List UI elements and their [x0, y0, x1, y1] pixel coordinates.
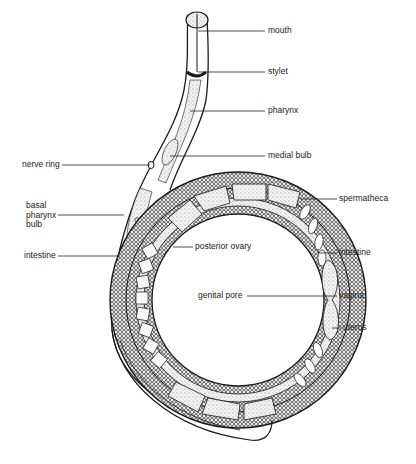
label-genital-pore: genital pore — [198, 291, 242, 300]
label-spermatheca: spermatheca — [339, 194, 388, 203]
label-intestine-right: intestine — [339, 248, 371, 257]
label-stylet: stylet — [268, 67, 288, 76]
label-medial-bulb: medial bulb — [268, 151, 311, 160]
label-intestine-left: intestine — [24, 251, 56, 260]
label-pharynx: pharynx — [268, 106, 298, 115]
label-uterus: uterus — [343, 323, 367, 332]
label-basal-pharynx-bulb: basal pharynx bulb — [26, 201, 56, 230]
label-mouth: mouth — [268, 26, 292, 35]
label-posterior-ovary: posterior ovary — [195, 242, 251, 251]
nematode-diagram — [0, 0, 416, 464]
label-nerve-ring: nerve ring — [22, 160, 60, 169]
nematode-body — [110, 12, 366, 440]
label-vagina: vagina — [339, 291, 364, 300]
